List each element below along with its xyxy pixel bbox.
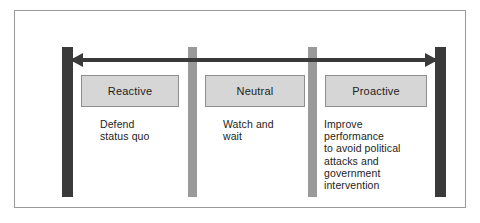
arrow-head-right-icon <box>425 53 438 67</box>
diagram-frame: Reactive Neutral Proactive Defend status… <box>14 10 466 208</box>
stage-description-neutral: Watch and wait <box>223 118 318 142</box>
stage-box-neutral: Neutral <box>205 75 305 107</box>
arrow-head-left-icon <box>70 53 83 67</box>
continuum-endpoint-right <box>435 47 446 197</box>
diagram-canvas: Reactive Neutral Proactive Defend status… <box>0 0 480 223</box>
stage-description-reactive: Defend status quo <box>100 118 195 142</box>
continuum-arrow-line <box>72 58 437 62</box>
stage-box-proactive: Proactive <box>325 75 427 107</box>
stage-box-reactive: Reactive <box>81 75 179 107</box>
stage-description-proactive: Improve performance to avoid political a… <box>324 118 434 191</box>
continuum-endpoint-left <box>62 47 73 197</box>
